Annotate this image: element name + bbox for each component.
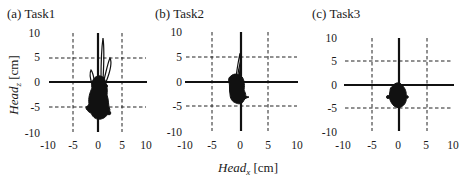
svg-text:-10: -10 <box>40 139 56 151</box>
panel-c-y-ticks: 10 5 0 -5 -10 <box>322 32 338 138</box>
panel-b: (b) Task2 10 5 0 -5 -10 -10 -5 0 5 10 <box>155 6 303 177</box>
svg-text:0: 0 <box>237 139 243 151</box>
svg-text:-5: -5 <box>207 139 217 151</box>
svg-text:5: 5 <box>119 139 125 151</box>
figure: Headz [cm] (a) Task1 10 5 0 -5 -10 -10 -… <box>0 0 464 183</box>
svg-text:5: 5 <box>176 51 182 63</box>
panel-b-y-ticks: 10 5 0 -5 -10 <box>167 26 183 138</box>
svg-text:5: 5 <box>265 139 271 151</box>
svg-text:-5: -5 <box>68 139 78 151</box>
y-axis-label: Headz [cm] <box>6 55 23 115</box>
svg-text:-10: -10 <box>177 139 193 151</box>
panel-a-y-ticks: 10 5 0 -5 -10 <box>25 27 41 139</box>
trajectory-cluster <box>229 53 249 104</box>
svg-text:10: 10 <box>140 139 152 151</box>
svg-text:5: 5 <box>331 55 337 67</box>
svg-text:5: 5 <box>34 51 40 63</box>
svg-text:0: 0 <box>176 76 182 88</box>
svg-text:0: 0 <box>395 139 401 151</box>
panel-a-title: (a) Task1 <box>7 6 55 21</box>
svg-text:5: 5 <box>423 139 429 151</box>
panel-a: (a) Task1 10 5 0 -5 -10 -10 -5 0 5 10 <box>7 6 152 151</box>
svg-text:0: 0 <box>95 139 101 151</box>
svg-text:0: 0 <box>34 76 40 88</box>
svg-text:-10: -10 <box>167 126 183 138</box>
panel-c-title: (c) Task3 <box>312 6 360 21</box>
svg-text:-10: -10 <box>25 127 41 139</box>
svg-text:-5: -5 <box>367 139 377 151</box>
trajectory-cluster <box>387 83 409 108</box>
svg-text:10: 10 <box>29 27 41 39</box>
svg-text:-10: -10 <box>322 126 338 138</box>
panel-c-x-ticks: -10 -5 0 5 10 <box>335 139 459 151</box>
svg-text:-5: -5 <box>30 101 40 113</box>
panel-b-x-ticks: -10 -5 0 5 10 <box>177 139 303 151</box>
svg-text:10: 10 <box>171 26 183 38</box>
svg-text:10: 10 <box>291 139 303 151</box>
svg-text:10: 10 <box>447 139 459 151</box>
svg-text:0: 0 <box>331 79 337 91</box>
svg-text:-10: -10 <box>335 139 351 151</box>
panel-a-x-ticks: -10 -5 0 5 10 <box>40 139 152 151</box>
svg-text:10: 10 <box>326 32 338 44</box>
svg-text:-5: -5 <box>327 102 337 114</box>
x-axis-label: Headx [cm] <box>217 160 278 177</box>
panel-b-title: (b) Task2 <box>155 6 204 21</box>
panel-c: (c) Task3 10 5 0 -5 -10 -10 -5 0 5 10 <box>312 6 459 151</box>
svg-text:-5: -5 <box>172 100 182 112</box>
